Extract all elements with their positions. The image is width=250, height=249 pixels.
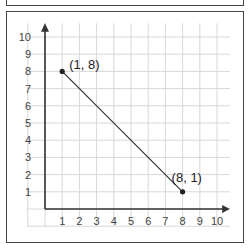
x-axis-arrow-icon [222, 205, 230, 213]
x-tick-label: 1 [59, 215, 65, 227]
y-tick-label: 10 [19, 31, 31, 43]
x-tick-label: 9 [197, 215, 203, 227]
x-tick-labels: 12345678910 [59, 215, 223, 227]
x-tick-label: 3 [94, 215, 100, 227]
x-tick-label: 8 [180, 215, 186, 227]
y-tick-label: 1 [25, 186, 31, 198]
data-point [60, 69, 65, 74]
y-tick-label: 9 [25, 48, 31, 60]
y-tick-label: 2 [25, 169, 31, 181]
data-point [180, 189, 185, 194]
y-tick-label: 8 [25, 65, 31, 77]
y-tick-label: 4 [25, 134, 31, 146]
y-tick-label: 5 [25, 117, 31, 129]
y-tick-label: 7 [25, 83, 31, 95]
y-tick-labels: 12345678910 [19, 31, 31, 198]
line-segment [62, 71, 182, 191]
x-tick-label: 10 [211, 215, 223, 227]
data-label: (8, 1) [172, 170, 202, 185]
y-tick-label: 3 [25, 151, 31, 163]
coordinate-plane: 12345678910 12345678910 (1, 8)(8, 1) [0, 0, 250, 249]
x-tick-label: 6 [145, 215, 151, 227]
x-tick-label: 7 [162, 215, 168, 227]
x-tick-label: 5 [128, 215, 134, 227]
y-axis-arrow-icon [41, 23, 49, 32]
y-tick-label: 6 [25, 100, 31, 112]
grid [27, 23, 230, 227]
x-tick-label: 4 [111, 215, 117, 227]
x-tick-label: 2 [76, 215, 82, 227]
data-label: (1, 8) [69, 57, 99, 72]
